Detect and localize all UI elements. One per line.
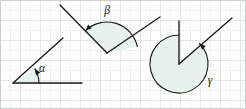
angles-figure: αβγ [0, 0, 246, 109]
angle-gamma: γ [150, 18, 232, 93]
label-alpha: α [39, 62, 46, 74]
angles-diagram-canvas: αβγ [0, 0, 246, 109]
angle-shapes-layer: αβγ [13, 4, 232, 93]
figure-border [1, 1, 246, 109]
label-beta: β [103, 4, 110, 17]
label-gamma: γ [208, 74, 213, 87]
graph-paper-grid [0, 0, 246, 109]
